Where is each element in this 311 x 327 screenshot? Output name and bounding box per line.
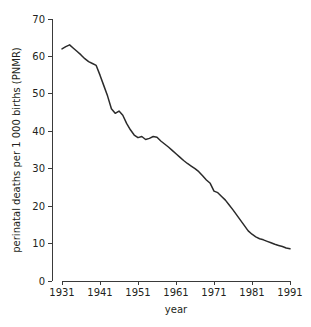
y-tick-label: 0 (39, 276, 45, 287)
y-tick-label: 10 (32, 238, 45, 249)
chart-plot-area: 0102030405060701931194119511961197119811… (0, 0, 311, 327)
x-tick-label: 1961 (163, 287, 188, 298)
data-series-line (62, 45, 290, 249)
x-tick-label: 1971 (201, 287, 226, 298)
y-tick-label: 30 (32, 163, 45, 174)
y-tick-label: 50 (32, 88, 45, 99)
y-tick-label: 60 (32, 51, 45, 62)
x-tick-label: 1981 (239, 287, 264, 298)
x-tick-label: 1951 (125, 287, 150, 298)
chart-figure: 0102030405060701931194119511961197119811… (0, 0, 311, 327)
x-axis-title: year (165, 304, 188, 315)
tick-labels-group: 0102030405060701931194119511961197119811… (32, 14, 302, 298)
y-tick-label: 70 (32, 14, 45, 25)
y-tick-label: 20 (32, 201, 45, 212)
y-axis-title: perinatal deaths per 1 000 births (PNMR) (11, 47, 22, 253)
x-tick-label: 1941 (87, 287, 112, 298)
x-tick-label: 1931 (49, 287, 74, 298)
x-tick-label: 1991 (277, 287, 302, 298)
y-tick-label: 40 (32, 126, 45, 137)
